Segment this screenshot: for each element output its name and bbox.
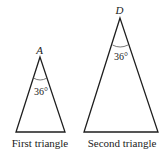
vertex-label-d: D: [115, 4, 124, 16]
second-triangle-apex-angle-arc: [113, 45, 129, 47]
second-triangle-outline: [84, 18, 158, 132]
vertex-label-a: A: [35, 44, 43, 56]
second-triangle-angle-label: 36°: [114, 51, 128, 62]
first-triangle-caption: First triangle: [12, 137, 69, 149]
first-triangle-apex-angle-arc: [34, 78, 48, 80]
similar-triangles-diagram: A 36° First triangle D 36° Second triang…: [0, 0, 167, 154]
first-triangle-angle-label: 36°: [34, 86, 48, 97]
second-triangle-caption: Second triangle: [88, 137, 157, 149]
first-triangle: A 36° First triangle: [12, 44, 69, 149]
second-triangle: D 36° Second triangle: [84, 4, 158, 149]
